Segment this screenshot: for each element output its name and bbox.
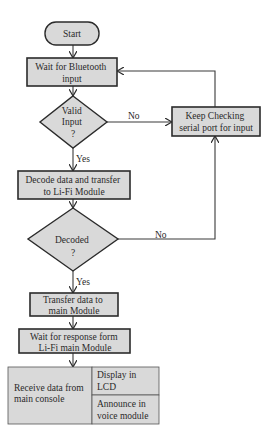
decoded-no-label: No — [155, 230, 167, 240]
start-label: Start — [63, 29, 81, 39]
valid-no-label: No — [128, 111, 140, 121]
decoded-yes-label: Yes — [76, 277, 90, 287]
flowchart: Start Wait for Bluetooth input Valid Inp… — [0, 0, 272, 443]
transfer-main-label: Transfer data to main Module — [43, 295, 105, 316]
wait-response-label: Wait for response form Li-Fi main Module — [30, 332, 120, 353]
valid-yes-label: Yes — [76, 154, 90, 164]
edge-decoded-no-to-keep — [118, 137, 215, 239]
edge-keep-to-wait — [118, 71, 215, 107]
